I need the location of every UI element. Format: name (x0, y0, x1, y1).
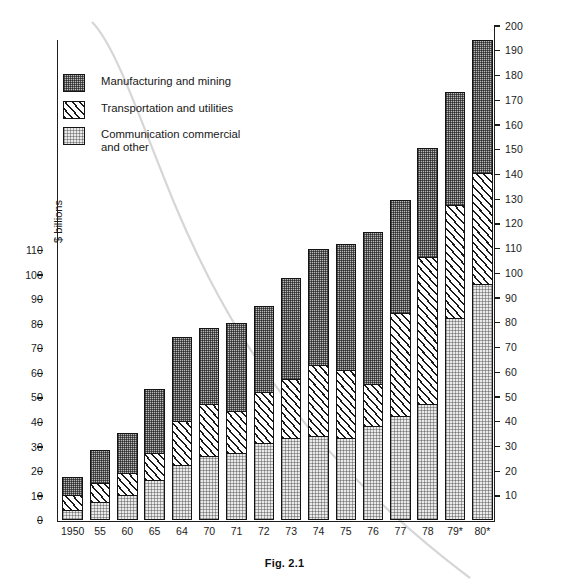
y-axis-right-tick-mark (494, 248, 500, 249)
bar-segment-communication (90, 502, 111, 520)
legend-label-communication: Communication commercial and other (101, 127, 240, 155)
y-axis-right-tick-mark (494, 372, 500, 373)
y-axis-right-tick-label: 120 (505, 218, 523, 229)
y-axis-left-tick-label: 90 (31, 294, 43, 305)
bar-segment-transportation (144, 453, 165, 481)
bar-segment-manufacturing (172, 337, 193, 422)
y-axis-right-tick-mark (494, 396, 500, 397)
bar-segment-transportation (308, 364, 329, 437)
x-axis-tick-label: 78 (414, 526, 441, 537)
y-axis-right-tick-mark (494, 273, 500, 274)
x-axis-tick-label: 1950 (59, 526, 86, 537)
y-axis-right-tick-mark (494, 322, 500, 323)
legend-item-manufacturing[interactable]: Manufacturing and mining (63, 74, 240, 92)
y-axis-right-tick-label: 20 (505, 466, 517, 477)
x-axis-tick-label: 75 (332, 526, 359, 537)
bar-segment-communication (308, 436, 329, 521)
y-axis-left-tick-label: 60 (31, 368, 43, 379)
y-axis-right-tick-label: 140 (505, 169, 523, 180)
y-axis-left-tick-label: 50 (31, 392, 43, 403)
y-axis-right-tick-label: 60 (505, 367, 517, 378)
y-axis-right-tick-mark (494, 100, 500, 101)
y-axis-right-tick-mark (494, 50, 500, 51)
stacked-bar-70[interactable] (199, 329, 220, 521)
y-axis-right-ticks: 1020304050607080901001101201301401501601… (505, 20, 545, 522)
bar-segment-manufacturing (363, 232, 384, 386)
x-axis-tick-label: 60 (114, 526, 141, 537)
bar-segment-manufacturing (62, 477, 83, 495)
bar-segment-communication (62, 509, 83, 520)
bar-segment-communication (254, 443, 275, 520)
y-axis-right-tick-label: 10 (505, 490, 517, 501)
x-axis-tick-label: 64 (168, 526, 195, 537)
stacked-bar-60[interactable] (117, 434, 138, 520)
legend-item-transportation[interactable]: Transportation and utilities (63, 101, 240, 119)
bar-segment-manufacturing (144, 389, 165, 454)
stacked-bar-65[interactable] (144, 390, 165, 520)
y-axis-right-tick-mark (494, 75, 500, 76)
stacked-bar-80star[interactable] (472, 42, 493, 521)
legend-swatch-transportation-icon (63, 101, 85, 119)
y-axis-left-tick-label: 70 (31, 343, 43, 354)
stacked-bar-71[interactable] (226, 324, 247, 520)
bar-segment-communication (117, 495, 138, 521)
stacked-bar-55[interactable] (90, 452, 111, 521)
legend-label-transportation: Transportation and utilities (101, 101, 233, 115)
y-axis-right-tick-label: 30 (505, 441, 517, 452)
y-axis-right-tick-label: 150 (505, 144, 523, 155)
stacked-bar-79star[interactable] (445, 93, 466, 520)
y-axis-right-tick-label: 80 (505, 317, 517, 328)
y-axis-right-tick-mark (494, 446, 500, 447)
bar-segment-transportation (417, 256, 438, 405)
x-axis-tick-label: 55 (86, 526, 113, 537)
y-axis-left-tick-label: 20 (31, 466, 43, 477)
y-axis-right-tick-label: 160 (505, 120, 523, 131)
bar-segment-transportation (363, 384, 384, 427)
y-axis-right-tick-label: 110 (505, 243, 522, 254)
bar-segment-manufacturing (336, 244, 357, 371)
x-axis-tick-label: 65 (141, 526, 168, 537)
bar-segment-communication (445, 318, 466, 521)
y-axis-right-tick-mark (494, 297, 500, 298)
y-axis-right-tick-label: 170 (505, 95, 523, 106)
stacked-bar-1950[interactable] (62, 479, 83, 521)
figure-caption: Fig. 2.1 (0, 557, 569, 569)
stacked-bar-74[interactable] (308, 250, 329, 520)
x-axis-tick-labels: 19505560656470717273747576777879*80* (57, 526, 494, 546)
legend-item-communication[interactable]: Communication commercial and other (63, 127, 240, 155)
bar-segment-transportation (90, 482, 111, 503)
y-axis-right-tick-label: 130 (505, 194, 523, 205)
y-axis-left-tick-label: 10 (31, 491, 43, 502)
bar-segment-transportation (390, 313, 411, 417)
bar-segment-communication (172, 465, 193, 520)
y-axis-left-tick-label: 110 (26, 245, 43, 256)
stacked-bar-76[interactable] (363, 233, 384, 520)
x-axis-tick-label: 74 (305, 526, 332, 537)
bar-segment-communication (144, 480, 165, 521)
y-axis-right-tick-mark (494, 223, 500, 224)
stacked-bar-73[interactable] (281, 280, 302, 521)
x-axis-tick-label: 73 (278, 526, 305, 537)
y-axis-right-tick-mark (494, 471, 500, 472)
bar-segment-communication (390, 416, 411, 520)
y-axis-right-tick-label: 190 (505, 45, 523, 56)
stacked-bar-64[interactable] (172, 339, 193, 521)
stacked-bar-78[interactable] (417, 150, 438, 521)
x-axis-tick-label: 76 (359, 526, 386, 537)
y-axis-right-tick-label: 90 (505, 293, 517, 304)
y-axis-right-tick-label: 200 (505, 21, 523, 32)
stacked-bar-77[interactable] (390, 201, 411, 520)
bar-segment-transportation (226, 411, 247, 454)
bar-segment-manufacturing (199, 328, 220, 405)
bar-segment-communication (226, 453, 247, 521)
bar-segment-manufacturing (226, 323, 247, 413)
bar-segment-transportation (445, 205, 466, 319)
chart-legend: Manufacturing and miningTransportation a… (63, 74, 240, 163)
legend-swatch-manufacturing-icon (63, 74, 85, 92)
bar-segment-transportation (62, 495, 83, 511)
x-axis-tick-label: 77 (387, 526, 414, 537)
stacked-bar-75[interactable] (336, 245, 357, 520)
legend-label-manufacturing: Manufacturing and mining (101, 74, 231, 88)
y-axis-right-tick-label: 50 (505, 392, 517, 403)
stacked-bar-72[interactable] (254, 307, 275, 521)
